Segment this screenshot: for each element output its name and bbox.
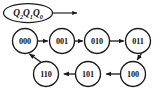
- edge-110-to-000: [30, 54, 42, 62]
- state-node-label: 000: [19, 37, 31, 46]
- state-diagram-container: Q2Q1Q0 000 001 010: [0, 0, 162, 96]
- state-node-label: 100: [127, 70, 139, 79]
- state-node-101[interactable]: 101: [76, 62, 101, 87]
- state-diagram-canvas: Q2Q1Q0 000 001 010: [0, 0, 162, 96]
- edge-011-to-100: [137, 53, 141, 60]
- state-node-label: 110: [40, 70, 51, 79]
- state-node-label: 011: [132, 37, 143, 46]
- register-label-text: Q2Q1Q0: [13, 8, 43, 19]
- state-nodes-group: 000 001 010 011 100 101: [13, 29, 151, 87]
- state-node-100[interactable]: 100: [121, 62, 146, 87]
- state-node-000[interactable]: 000: [13, 29, 38, 54]
- state-node-label: 010: [91, 37, 103, 46]
- state-node-001[interactable]: 001: [50, 29, 75, 54]
- state-node-label: 101: [82, 70, 94, 79]
- state-register-group: Q2Q1Q0: [4, 4, 78, 23]
- state-node-010[interactable]: 010: [85, 29, 110, 54]
- state-node-110[interactable]: 110: [34, 62, 59, 87]
- state-node-label: 001: [56, 37, 68, 46]
- state-node-011[interactable]: 011: [126, 29, 151, 54]
